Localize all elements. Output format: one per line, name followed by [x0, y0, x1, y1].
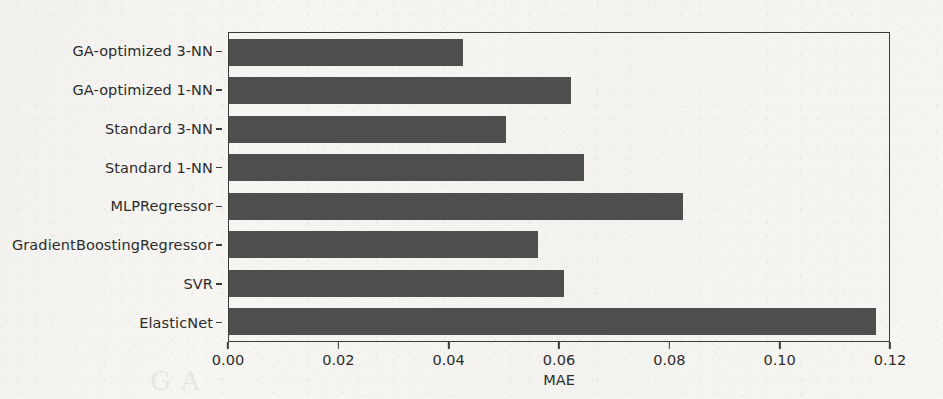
x-axis-tick-label: 0.02 [322, 352, 354, 368]
y-axis-tick-label: Standard 1-NN [105, 160, 213, 176]
x-axis-tick-mark [338, 342, 340, 349]
x-axis-tick-label: 0.12 [874, 352, 906, 368]
bar-row [229, 193, 889, 220]
x-axis-title: MAE [228, 372, 890, 388]
x-axis-tick-mark [779, 342, 781, 349]
y-axis-tick-row: GA-optimized 1-NN [0, 77, 222, 104]
scan-showthrough-artifact: GA [150, 366, 210, 396]
plot-area [228, 32, 890, 342]
bars-layer [229, 33, 889, 341]
x-axis-tick-label: 0.06 [543, 352, 575, 368]
bar-row [229, 270, 889, 297]
bar [229, 154, 584, 181]
x-axis-tick-label: 0.08 [653, 352, 685, 368]
y-axis-tick-row: MLPRegressor [0, 193, 222, 220]
x-axis-tick-mark [448, 342, 450, 349]
y-axis-tick-mark [216, 244, 222, 246]
bar [229, 270, 564, 297]
x-axis-tick-mark [669, 342, 671, 349]
y-axis-tick-mark [216, 128, 222, 130]
x-axis-tick-mark [889, 342, 891, 349]
y-axis-tick-label: Standard 3-NN [105, 121, 213, 137]
y-axis-tick-row: GradientBoostingRegressor [0, 232, 222, 259]
bar [229, 193, 683, 220]
x-axis-tick: 0.04 [433, 342, 465, 368]
y-axis-tick-row: GA-optimized 3-NN [0, 38, 222, 65]
bar [229, 77, 571, 104]
y-axis-tick-label: ElasticNet [139, 315, 213, 331]
y-axis-tick-row: Standard 1-NN [0, 154, 222, 181]
y-axis-tick-mark [216, 206, 222, 208]
bar-row [229, 308, 889, 335]
y-axis-tick-mark [216, 322, 222, 324]
y-axis-tick-mark [216, 283, 222, 285]
bar [229, 308, 876, 335]
y-axis-tick-label: SVR [184, 276, 214, 292]
y-axis-tick-row: Standard 3-NN [0, 115, 222, 142]
x-axis-tick: 0.00 [212, 342, 244, 368]
y-axis-tick-row: SVR [0, 270, 222, 297]
x-axis-tick-mark [227, 342, 229, 349]
y-axis-tick-label: GA-optimized 1-NN [73, 82, 213, 98]
bar [229, 116, 506, 143]
chart-page: GA GA-optimized 3-NN GA-optimized 1-NN S… [0, 0, 943, 399]
y-axis-tick-label: MLPRegressor [110, 198, 213, 214]
x-axis-tick-label: 0.10 [764, 352, 796, 368]
y-axis-tick-mark [216, 51, 222, 53]
y-axis-tick-labels: GA-optimized 3-NN GA-optimized 1-NN Stan… [0, 32, 222, 342]
bar-row [229, 154, 889, 181]
bar [229, 39, 463, 66]
y-axis-tick-row: ElasticNet [0, 309, 222, 336]
x-axis-tick: 0.02 [322, 342, 354, 368]
y-axis-tick-label: GradientBoostingRegressor [12, 237, 213, 253]
x-axis-tick-mark [558, 342, 560, 349]
y-axis-tick-mark [216, 167, 222, 169]
bar-row [229, 39, 889, 66]
bar [229, 231, 538, 258]
bar-row [229, 231, 889, 258]
x-axis-tick-label: 0.04 [433, 352, 465, 368]
y-axis-tick-label: GA-optimized 3-NN [73, 43, 213, 59]
x-axis-tick: 0.12 [874, 342, 906, 368]
y-axis-tick-mark [216, 89, 222, 91]
x-axis-tick: 0.10 [764, 342, 796, 368]
x-axis-tick-label: 0.00 [212, 352, 244, 368]
bar-row [229, 77, 889, 104]
x-axis-tick: 0.06 [543, 342, 575, 368]
x-axis-tick: 0.08 [653, 342, 685, 368]
bar-row [229, 116, 889, 143]
